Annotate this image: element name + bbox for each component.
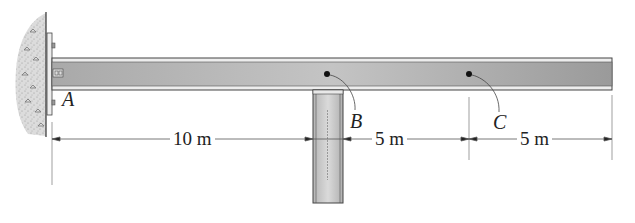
beam [52,58,612,90]
dimension-c-end-label: 5 m [517,129,552,149]
dimension-ab-label: 10 m [170,129,215,149]
point-a-label: A [62,88,74,111]
wall-support [16,12,56,137]
dimension-bc-label: 5 m [372,129,407,149]
point-c-label: C [493,111,506,134]
beam-diagram [0,0,635,223]
column-support [313,90,343,203]
point-b-label: B [350,110,362,133]
